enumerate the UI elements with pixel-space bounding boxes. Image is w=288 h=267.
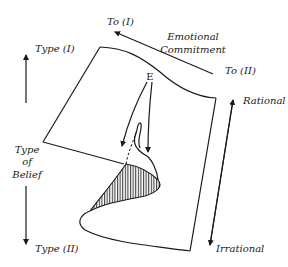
surface-left-upper-edge xyxy=(43,47,100,142)
label-equilibrium-e: E xyxy=(146,71,153,82)
label-to-two: To (II) xyxy=(225,65,256,76)
cusp-loop-upper xyxy=(137,123,141,148)
label-irrational: Irrational xyxy=(215,243,264,254)
label-to-one: To (I) xyxy=(107,16,134,27)
trajectory-right-arrow xyxy=(148,82,152,152)
label-belief-of: of xyxy=(22,156,34,167)
label-rational: Rational xyxy=(242,95,286,106)
label-belief-type: Type xyxy=(15,144,40,155)
label-commitment: Commitment xyxy=(160,44,227,55)
label-type-one: Type (I) xyxy=(35,43,75,54)
cusp-fold-hatched-region xyxy=(90,164,160,211)
surface-left-lower-edge xyxy=(43,142,124,164)
label-belief-belief: Belief xyxy=(11,169,44,180)
irrational-arrow xyxy=(210,100,233,245)
surface-lower-fold-edge xyxy=(80,211,190,251)
label-emotional: Emotional xyxy=(166,31,219,42)
cusp-diagram: To (I) Emotional Commitment To (II) Type… xyxy=(0,0,288,267)
cusp-loop-lower xyxy=(134,130,147,156)
label-type-two: Type (II) xyxy=(35,243,79,254)
